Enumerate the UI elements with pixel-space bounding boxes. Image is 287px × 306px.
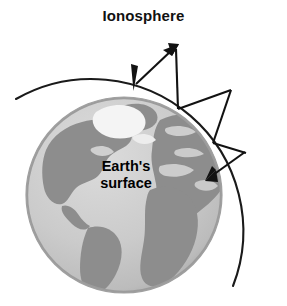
earth-surface-label-line1: Earth's (78, 158, 174, 175)
ionosphere-title: Ionosphere (0, 7, 287, 24)
africa (140, 187, 198, 287)
ray-segment-down-3 (213, 152, 245, 175)
ray-segment-down-2 (213, 90, 231, 143)
earth-surface-label: Earth's surface (78, 158, 174, 192)
ionosphere-propagation-figure: Ionosphere Earth's surface (0, 0, 287, 306)
diagram-canvas (0, 0, 287, 306)
ray-segment-down-1 (176, 49, 178, 109)
ray-segment-up-2 (178, 90, 231, 109)
ray-segment-up-1 (136, 50, 172, 84)
earth-surface-label-line2: surface (78, 175, 174, 192)
